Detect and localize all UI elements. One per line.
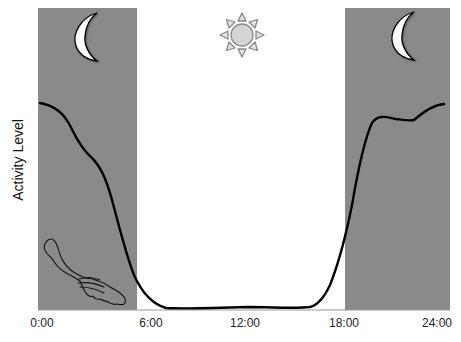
x-tick-label: 24:00 [422, 316, 452, 330]
x-tick-label: 0:00 [30, 316, 53, 330]
x-tick-label: 12:00 [230, 316, 260, 330]
activity-chart [0, 0, 461, 342]
x-tick-label: 6:00 [139, 316, 162, 330]
x-tick-label: 18:00 [329, 316, 359, 330]
y-axis-label: Activity Level [10, 119, 26, 201]
sun-icon [220, 13, 264, 57]
